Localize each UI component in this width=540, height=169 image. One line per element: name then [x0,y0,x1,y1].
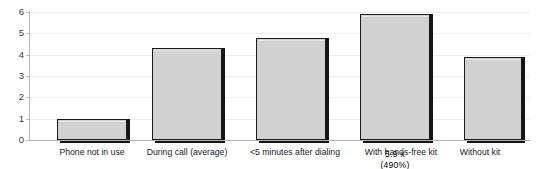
y-tick-5: 5 [0,28,24,38]
plot-area: 1 4.3 x (330%) 4.8 x (380%) [30,12,530,140]
y-tick-label: 2 [2,92,24,102]
tick-mark [26,33,30,34]
bar-phone-not-in-use [57,119,127,140]
y-tick-6: 6 [0,7,24,17]
bar-highlight [466,59,520,60]
bar-with-hands-free-kit [360,14,430,140]
bar-highlight [362,16,428,17]
gridline-5 [30,33,530,34]
y-tick-2: 2 [0,92,24,102]
bar-highlight [258,40,324,41]
y-tick-label: 4 [2,50,24,60]
bar-value-line2: (490%) [360,160,430,169]
y-tick-label: 3 [2,71,24,81]
tick-mark [26,119,30,120]
tick-mark [26,76,30,77]
y-tick-label: 5 [2,28,24,38]
bar-during-call [152,48,222,140]
y-tick-1: 1 [0,114,24,124]
y-tick-0: 0 [0,135,24,145]
tick-mark [26,140,30,141]
bar-without-kit [464,57,522,140]
y-tick-label: 1 [2,114,24,124]
tick-mark [26,55,30,56]
bar-chart: 1 4.3 x (330%) 4.8 x (380%) [0,0,540,169]
category-label-4: Without kit [434,147,526,158]
y-tick-4: 4 [0,50,24,60]
y-tick-label: 0 [2,135,24,145]
bar-under-5-minutes [256,38,326,140]
x-axis-line [29,140,530,141]
y-tick-3: 3 [0,71,24,81]
tick-mark [26,12,30,13]
y-tick-label: 6 [2,7,24,17]
gridline-6 [30,12,530,13]
tick-mark [26,97,30,98]
bar-highlight [154,50,220,51]
bar-highlight [59,121,125,122]
